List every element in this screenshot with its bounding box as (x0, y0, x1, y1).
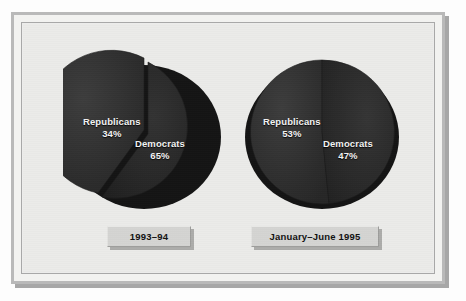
pie-2-label-republicans: Republicans 53% (263, 116, 321, 140)
caption-1-text: 1993–94 (130, 231, 168, 242)
chart-panel: Republicans 34% Democrats 65% (23, 24, 433, 272)
caption-plaque-january-june-1995: January–June 1995 (251, 226, 379, 247)
pie-1-democrats-name: Democrats (135, 138, 185, 149)
pie-2-democrats-pct: 47% (323, 150, 373, 162)
pie-1-label-republicans: Republicans 34% (83, 116, 141, 140)
pie-2-slice-democrats[interactable] (322, 60, 394, 204)
pie-chart-january-june-1995: Republicans 53% Democrats 47% (241, 44, 403, 210)
pie-2-republicans-name: Republicans (263, 116, 321, 127)
pie-1-democrats-pct: 65% (135, 150, 185, 162)
pie-2-democrats-name: Democrats (323, 138, 373, 149)
pie-1-republicans-pct: 34% (83, 128, 141, 140)
figure-root: Republicans 34% Democrats 65% (0, 0, 466, 301)
pie-chart-1993-94: Republicans 34% Democrats 65% (63, 44, 225, 210)
pie-2-label-democrats: Democrats 47% (323, 138, 373, 162)
pie-1-label-democrats: Democrats 65% (135, 138, 185, 162)
caption-2-text: January–June 1995 (269, 231, 360, 242)
caption-plaque-1993-94: 1993–94 (107, 226, 191, 247)
pie-1-republicans-name: Republicans (83, 116, 141, 127)
pie-2-republicans-pct: 53% (263, 128, 321, 140)
